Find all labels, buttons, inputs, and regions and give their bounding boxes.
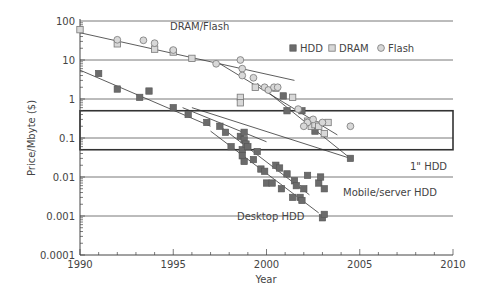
- hdd-marker: [317, 174, 323, 180]
- flash-marker: [274, 84, 281, 91]
- hdd-marker: [276, 165, 282, 171]
- hdd-marker: [280, 93, 286, 99]
- hdd-marker: [299, 197, 305, 203]
- legend-label: HDD: [300, 43, 323, 54]
- y-axis-title: Price/Mbyte ($): [26, 100, 37, 176]
- flash-marker: [237, 57, 244, 64]
- flash-marker: [114, 36, 121, 43]
- annotation-label: DRAM/Flash: [170, 21, 229, 32]
- hdd-marker: [217, 123, 223, 129]
- flash-marker: [378, 45, 385, 52]
- hdd-marker: [228, 143, 234, 149]
- hdd-marker: [136, 94, 142, 100]
- annotation-label: Mobile/server HDD: [343, 187, 437, 198]
- hdd-marker: [146, 88, 152, 94]
- flash-marker: [319, 119, 326, 126]
- hdd-marker: [290, 45, 296, 51]
- x-tick-label: 2000: [254, 259, 279, 270]
- y-tick-label: 10: [62, 55, 75, 66]
- annotation-label: Desktop HDD: [237, 211, 305, 222]
- hdd-marker: [301, 186, 307, 192]
- flash-marker: [295, 106, 302, 113]
- highlight-box: [80, 111, 453, 150]
- highlight-band: [80, 111, 453, 150]
- hdd-marker: [293, 182, 299, 188]
- hdd-marker: [278, 186, 284, 192]
- dram-marker: [329, 45, 335, 51]
- legend-label: Flash: [388, 43, 414, 54]
- flash-marker: [213, 60, 220, 67]
- hdd-marker: [222, 129, 228, 135]
- flash-marker: [151, 40, 158, 47]
- dram-marker: [189, 55, 195, 61]
- hdd-marker: [254, 148, 260, 154]
- dram-marker: [77, 26, 83, 32]
- hdd-marker: [114, 86, 120, 92]
- legend-label: DRAM: [339, 43, 369, 54]
- hdd-marker: [321, 211, 327, 217]
- hdd-marker: [284, 108, 290, 114]
- hdd-marker: [289, 194, 295, 200]
- hdd-marker: [245, 143, 251, 149]
- y-tick-label: 100: [56, 16, 75, 27]
- dram-marker: [289, 94, 295, 100]
- annotation-label: 1" HDD: [410, 161, 447, 172]
- x-tick-label: 2010: [440, 259, 465, 270]
- x-tick-label: 2005: [347, 259, 372, 270]
- legend: HDDDRAMFlash: [290, 43, 414, 54]
- trend-line: [183, 108, 267, 142]
- hdd-marker: [185, 111, 191, 117]
- hdd-marker: [284, 171, 290, 177]
- hdd-marker: [170, 104, 176, 110]
- hdd-marker: [321, 186, 327, 192]
- x-tick-label: 1990: [67, 259, 92, 270]
- flash-marker: [310, 116, 317, 123]
- trend-line: [257, 83, 350, 158]
- hdd-marker: [261, 168, 267, 174]
- y-tick-label: 0.1: [59, 133, 75, 144]
- flash-marker: [250, 74, 257, 81]
- y-tick-label: 0.001: [46, 211, 75, 222]
- trend-line: [80, 33, 294, 81]
- price-per-mbyte-chart: 0.00010.0010.010.11101001990199520002005…: [0, 0, 482, 305]
- hdd-marker: [304, 172, 310, 178]
- hdd-marker: [204, 119, 210, 125]
- data-points: [77, 26, 354, 221]
- hdd-marker: [347, 155, 353, 161]
- x-tick-label: 1995: [161, 259, 186, 270]
- hdd-marker: [250, 156, 256, 162]
- flash-marker: [239, 72, 246, 79]
- flash-marker: [140, 37, 147, 44]
- hdd-marker: [95, 70, 101, 76]
- dram-marker: [252, 84, 258, 90]
- flash-marker: [170, 47, 177, 54]
- flash-marker: [239, 65, 246, 72]
- dram-marker: [237, 100, 243, 106]
- dram-marker: [321, 130, 327, 136]
- x-axis-title: Year: [254, 274, 277, 285]
- y-tick-label: 0.01: [53, 172, 75, 183]
- hdd-marker: [241, 129, 247, 135]
- flash-marker: [347, 123, 354, 130]
- y-tick-label: 1: [69, 94, 75, 105]
- hdd-marker: [241, 158, 247, 164]
- hdd-marker: [269, 180, 275, 186]
- flash-marker: [300, 123, 307, 130]
